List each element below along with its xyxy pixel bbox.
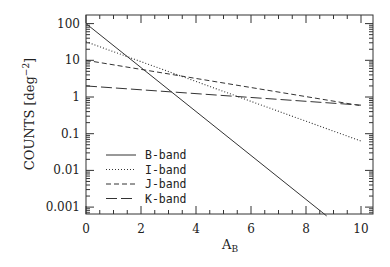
chart: 1001010.10.010.001 0246810 AB COUNTS [de…: [0, 0, 390, 267]
x-tick-label: 0: [82, 222, 90, 236]
series-j-bandline: [86, 60, 361, 105]
y-tick-labels: 1001010.10.010.001: [46, 17, 80, 215]
series-k-bandline: [86, 86, 361, 105]
axis-ticks: [86, 15, 373, 214]
y-tick-label: 0.1: [61, 127, 80, 141]
x-tick-label: 2: [137, 222, 145, 236]
x-tick-label: 6: [247, 222, 255, 236]
series-i-bandline: [86, 42, 361, 141]
series-b-bandline: [86, 24, 327, 216]
x-tick-label: 10: [353, 222, 368, 236]
y-tick-label: 100: [57, 17, 80, 31]
legend: B-bandI-bandJ-bandK-band: [106, 148, 187, 206]
x-tick-label: 8: [302, 222, 310, 236]
legend-label: B-band: [145, 148, 187, 162]
legend-label: K-band: [145, 192, 187, 206]
legend-label: I-band: [145, 163, 187, 177]
y-tick-label: 0.01: [53, 163, 80, 177]
y-tick-label: 1: [72, 90, 80, 104]
x-tick-labels: 0246810: [82, 222, 368, 236]
x-axis-label: AB: [221, 237, 238, 254]
y-axis-label-superscript: −2: [21, 63, 31, 76]
y-tick-label: 0.001: [46, 200, 80, 214]
y-axis-label: COUNTS [deg−2]: [21, 58, 37, 170]
y-tick-label: 10: [65, 53, 80, 67]
x-tick-label: 4: [192, 222, 200, 236]
x-axis-label-subscript: B: [231, 244, 238, 254]
data-series: [86, 24, 361, 216]
plot-frame: [86, 15, 373, 214]
legend-label: J-band: [145, 177, 187, 191]
